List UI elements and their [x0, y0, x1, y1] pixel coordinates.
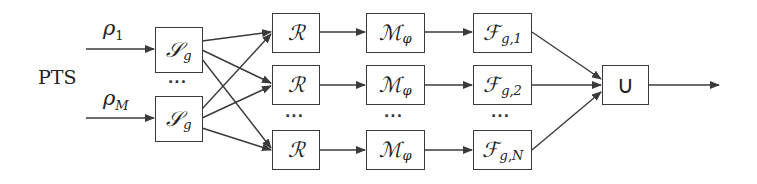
filter-symbol: ℱ — [482, 138, 499, 162]
reconstruct-box-1: ℛ — [272, 13, 320, 53]
map-symbol: ℳ — [379, 21, 401, 45]
filter-symbol: ℱ — [483, 21, 500, 45]
map-subscript: φ — [402, 31, 411, 46]
map-box-n: ℳφ — [366, 130, 425, 170]
reconstruct-symbol: ℛ — [288, 21, 305, 45]
splitter-symbol: 𝒮 — [166, 38, 182, 62]
splitter-box-m: 𝒮g — [155, 96, 203, 142]
filter-box-2: ℱg,2 — [473, 65, 532, 105]
reconstruct-box-2: ℛ — [272, 65, 320, 105]
splitter-subscript: g — [183, 48, 191, 63]
splitter-subscript: g — [183, 117, 191, 132]
map-symbol: ℳ — [379, 138, 401, 162]
union-symbol: ∪ — [617, 71, 635, 99]
rho-1-subscript: 1 — [115, 28, 123, 43]
map-ellipsis: ··· — [384, 108, 403, 124]
splitter-box-1: 𝒮g — [155, 27, 203, 73]
filter-symbol: ℱ — [483, 73, 500, 97]
filter-subscript: g,2 — [501, 83, 522, 98]
rho-1-label: ρ1 — [103, 16, 124, 43]
rho-symbol: ρ — [103, 86, 115, 110]
reconstruct-ellipsis: ··· — [285, 108, 304, 124]
reconstruct-symbol: ℛ — [288, 138, 305, 162]
rho-m-label: ρM — [103, 86, 129, 113]
map-box-1: ℳφ — [366, 13, 425, 53]
filter-subscript: g,N — [500, 148, 524, 163]
splitter-ellipsis: ··· — [168, 74, 187, 90]
union-box: ∪ — [602, 65, 649, 105]
splitter-symbol: 𝒮 — [166, 107, 182, 131]
map-box-2: ℳφ — [366, 65, 425, 105]
pts-label: PTS — [38, 66, 76, 88]
reconstruct-symbol: ℛ — [288, 73, 305, 97]
filter-box-n: ℱg,N — [473, 130, 532, 170]
filter-subscript: g,1 — [501, 31, 522, 46]
rho-m-subscript: M — [115, 98, 128, 113]
map-subscript: φ — [402, 148, 411, 163]
filter-box-1: ℱg,1 — [473, 13, 532, 53]
reconstruct-box-n: ℛ — [272, 130, 320, 170]
filter-ellipsis: ··· — [491, 108, 510, 124]
rho-symbol: ρ — [103, 16, 115, 40]
map-symbol: ℳ — [379, 73, 401, 97]
map-subscript: φ — [402, 83, 411, 98]
